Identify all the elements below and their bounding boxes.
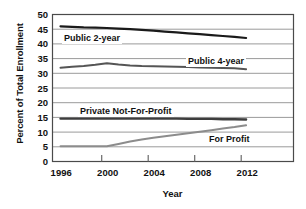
- series-private-not-for-profit: [61, 119, 247, 120]
- x-axis-ticks: [102, 155, 242, 162]
- x-tick-label: 2008: [190, 168, 211, 178]
- x-axis-tick-labels: 1996 2000 2004 2008 2012: [52, 168, 293, 182]
- x-tick-label: 2012: [237, 168, 258, 178]
- series-label-public-2-year: Public 2-year: [62, 33, 122, 44]
- series-label-for-profit: For Profit: [207, 134, 252, 145]
- x-axis-title: Year: [52, 188, 293, 199]
- enrollment-line-chart: Percent of Total Enrollment 50 45 40 35 …: [0, 0, 306, 209]
- series-label-private-not-for-profit: Private Not-For-Profit: [78, 106, 174, 117]
- series-label-public-4-year: Public 4-year: [186, 56, 246, 67]
- x-tick-label: 2000: [97, 168, 118, 178]
- x-tick-label: 1996: [51, 168, 72, 178]
- x-tick-label: 2004: [144, 168, 165, 178]
